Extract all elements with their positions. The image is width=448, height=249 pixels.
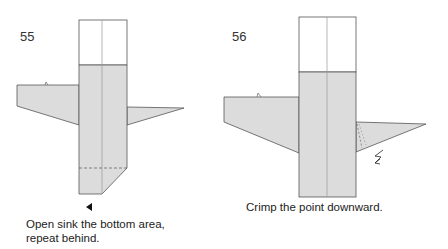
sink-arrow-icon [86,203,92,211]
step-56-number: 56 [232,29,246,44]
wing-tick-mark [45,82,48,85]
center-column [299,72,356,197]
left-wing [17,85,79,125]
step-55-caption-line2: repeat behind. [26,232,100,245]
step-55-figure [17,20,184,211]
step-55-caption-line1: Open sink the bottom area, [26,218,165,231]
crimp-arrow-icon [375,150,383,164]
right-wing [127,107,184,125]
center-column [79,65,127,194]
step-56-figure [224,17,426,197]
left-wing [224,97,299,153]
right-wing [356,122,426,152]
step-56-caption: Crimp the point downward. [246,201,383,214]
top-white-flap [79,20,127,65]
top-white-flap [299,17,356,72]
wing-tick-mark [257,93,261,97]
